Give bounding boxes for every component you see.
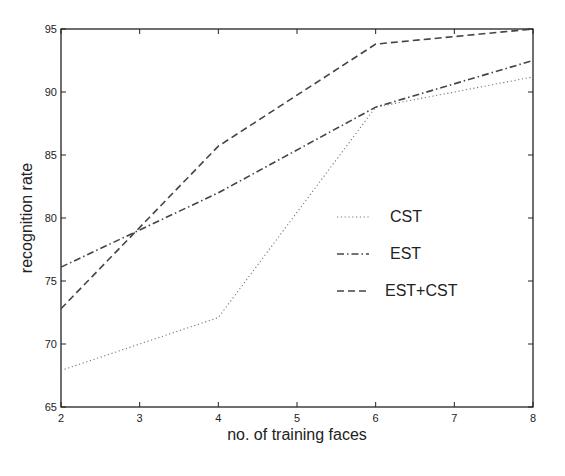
x-tick-label: 3 <box>137 412 143 424</box>
x-tick-label: 5 <box>294 412 300 424</box>
y-tick-label: 90 <box>45 86 57 98</box>
x-tick-label: 7 <box>451 412 457 424</box>
x-tick-label: 8 <box>530 412 536 424</box>
y-axis-label: recognition rate <box>18 163 35 273</box>
series-lines <box>61 29 533 370</box>
line-chart: 234567865707580859095 CSTESTEST+CST no. … <box>0 0 565 476</box>
plot-area-border <box>61 29 533 407</box>
legend-label: EST <box>390 245 421 262</box>
y-tick-label: 70 <box>45 338 57 350</box>
legend: CSTESTEST+CST <box>337 208 458 299</box>
axis-ticks: 234567865707580859095 <box>45 23 536 424</box>
legend-label: CST <box>390 208 422 225</box>
y-tick-label: 95 <box>45 23 57 35</box>
series-line-cst <box>61 77 533 371</box>
x-axis-label: no. of training faces <box>227 426 367 443</box>
plot-frame <box>61 29 533 407</box>
x-tick-label: 2 <box>58 412 64 424</box>
y-tick-label: 75 <box>45 275 57 287</box>
y-tick-label: 80 <box>45 212 57 224</box>
legend-label: EST+CST <box>385 282 458 299</box>
x-tick-label: 6 <box>373 412 379 424</box>
series-line-est-plus-cst <box>61 29 533 309</box>
y-tick-label: 65 <box>45 401 57 413</box>
y-tick-label: 85 <box>45 149 57 161</box>
x-tick-label: 4 <box>215 412 221 424</box>
